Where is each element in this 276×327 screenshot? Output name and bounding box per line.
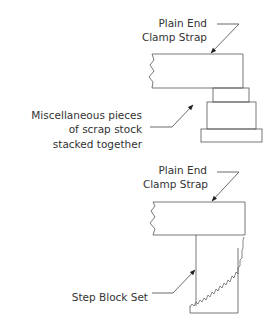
top-support-label-line1: Miscellaneous pieces bbox=[31, 109, 142, 121]
top-strap-label-line1: Plain End bbox=[158, 17, 207, 29]
top-scrap-block-3 bbox=[201, 129, 262, 142]
bottom-clamp-strap bbox=[150, 202, 245, 235]
top-support-label-line2: of scrap stock bbox=[69, 123, 143, 135]
step-block-label: Step Block Set bbox=[72, 291, 148, 303]
bottom-strap-label-line1: Plain End bbox=[158, 164, 207, 176]
bottom-strap-label-line2: Clamp Strap bbox=[143, 178, 208, 190]
top-clamp-strap bbox=[149, 54, 243, 88]
top-strap-leader-arrow bbox=[211, 24, 239, 53]
top-support-leader-arrow bbox=[150, 105, 193, 127]
bottom-strap-leader-arrow bbox=[212, 172, 239, 201]
top-scrap-block-2 bbox=[207, 102, 256, 129]
clamp-setup-diagram: Plain End Clamp Strap Miscellaneous piec… bbox=[0, 0, 276, 327]
top-support-label-line3: stacked together bbox=[53, 138, 143, 150]
bottom-setup: Plain End Clamp Strap Step Block Set bbox=[72, 164, 245, 313]
step-block-leader-arrow bbox=[152, 270, 195, 293]
top-scrap-block-1 bbox=[213, 88, 249, 102]
step-block-set bbox=[190, 235, 244, 313]
step-block-serrations bbox=[190, 237, 244, 307]
top-strap-label-line2: Clamp Strap bbox=[142, 31, 207, 43]
top-setup: Plain End Clamp Strap Miscellaneous piec… bbox=[31, 17, 262, 150]
